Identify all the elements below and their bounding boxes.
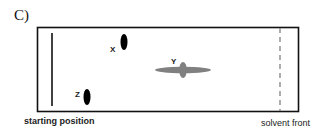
tlc-diagram: C) X Y Z starting position solvent front: [0, 0, 327, 136]
spot-x-label: X: [110, 45, 116, 54]
spot-z: Z: [75, 89, 91, 105]
spot-z-label: Z: [75, 90, 80, 99]
starting-position-label: starting position: [24, 116, 95, 126]
spot-y-label: Y: [171, 57, 177, 66]
spot-x: X: [110, 34, 128, 54]
panel-label: C): [14, 7, 29, 24]
spot-y: Y: [155, 57, 211, 78]
solvent-front-label: solvent front: [261, 118, 311, 128]
